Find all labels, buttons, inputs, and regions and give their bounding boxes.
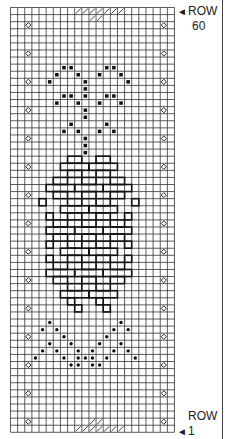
diamond-symbol xyxy=(161,51,166,56)
diamond-symbol xyxy=(26,79,31,84)
hatch-mark xyxy=(76,426,81,431)
dot-symbol xyxy=(134,356,137,359)
dot-symbol xyxy=(77,349,80,352)
filled-square-symbol xyxy=(84,144,88,147)
filled-square-symbol xyxy=(105,123,109,126)
bold-outline-block xyxy=(46,255,53,262)
dot-symbol xyxy=(84,356,87,359)
diamond-symbol xyxy=(161,391,166,396)
filled-square-symbol xyxy=(62,66,66,69)
diamond-symbol xyxy=(161,277,166,282)
diamond-symbol xyxy=(26,108,31,113)
bold-outline-block xyxy=(68,298,75,305)
filled-square-symbol xyxy=(98,73,102,76)
diamond-symbol xyxy=(26,419,31,424)
filled-square-symbol xyxy=(69,94,73,97)
dot-symbol xyxy=(48,321,51,324)
dot-symbol xyxy=(41,349,44,352)
dot-symbol xyxy=(62,356,65,359)
bold-outline-block xyxy=(75,305,82,312)
hatch-mark xyxy=(83,9,88,14)
hatch-mark xyxy=(90,16,95,21)
diamond-symbol xyxy=(161,79,166,84)
diamond-symbol xyxy=(26,362,31,367)
filled-square-symbol xyxy=(112,130,116,133)
diamond-symbol xyxy=(161,362,166,367)
diamond-symbol xyxy=(161,23,166,28)
bold-outline-block xyxy=(39,199,46,206)
diamond-symbol xyxy=(161,164,166,169)
bold-outline-block xyxy=(96,298,103,305)
hatch-mark xyxy=(111,9,116,14)
hatch-mark xyxy=(76,9,81,14)
diamond-symbol xyxy=(161,136,166,141)
diamond-symbol xyxy=(26,136,31,141)
row-60-arrow: ◄ xyxy=(177,6,187,18)
dot-symbol xyxy=(69,363,72,366)
hatch-mark xyxy=(90,9,95,14)
bold-outline-block xyxy=(46,213,53,220)
diamond-symbol xyxy=(26,23,31,28)
bold-outline-block xyxy=(125,213,132,220)
diamond-symbol xyxy=(26,193,31,198)
dot-symbol xyxy=(105,356,108,359)
hatch-mark xyxy=(118,9,123,14)
diamond-symbol xyxy=(161,108,166,113)
dot-symbol xyxy=(119,342,122,345)
dot-symbol xyxy=(55,328,58,331)
filled-square-symbol xyxy=(98,130,102,133)
diamond-symbol xyxy=(161,306,166,311)
diamond-symbol xyxy=(26,249,31,254)
filled-square-symbol xyxy=(62,94,66,97)
diamond-symbol xyxy=(161,221,166,226)
hatch-mark xyxy=(104,426,109,431)
filled-square-symbol xyxy=(126,80,130,83)
diamond-symbol xyxy=(26,51,31,56)
dot-symbol xyxy=(48,342,51,345)
dot-symbol xyxy=(34,356,37,359)
row-1-label-word: ROW xyxy=(188,410,217,422)
row-1-label-number: 1 xyxy=(188,425,195,437)
hatch-mark xyxy=(97,419,102,424)
row-60-label-number: 60 xyxy=(192,20,205,32)
diamond-symbol xyxy=(26,334,31,339)
dot-symbol xyxy=(91,363,94,366)
hatch-mark xyxy=(90,426,95,431)
filled-square-symbol xyxy=(55,101,59,104)
hatch-mark xyxy=(83,426,88,431)
bold-outline-block xyxy=(125,255,132,262)
dot-symbol xyxy=(119,321,122,324)
dot-symbol xyxy=(55,349,58,352)
filled-square-symbol xyxy=(48,80,52,83)
dot-symbol xyxy=(126,328,129,331)
right-border-line xyxy=(222,0,223,439)
diamond-symbol xyxy=(26,221,31,226)
bold-outline-block xyxy=(125,241,132,248)
filled-square-symbol xyxy=(112,66,116,69)
dot-symbol xyxy=(62,335,65,338)
hatch-mark xyxy=(97,16,102,21)
row-1-arrow: ◄ xyxy=(177,426,187,438)
dot-symbol xyxy=(77,356,80,359)
filled-square-symbol xyxy=(105,94,109,97)
dot-symbol xyxy=(126,349,129,352)
diamond-symbol xyxy=(26,277,31,282)
dot-symbol xyxy=(77,363,80,366)
diamond-symbol xyxy=(26,164,31,169)
bold-outline-block xyxy=(132,199,139,206)
hatch-mark xyxy=(111,426,116,431)
hatch-mark xyxy=(90,419,95,424)
diamond-symbol xyxy=(161,249,166,254)
diamond-symbol xyxy=(26,306,31,311)
diamond-symbol xyxy=(161,419,166,424)
row-60-label-word: ROW xyxy=(188,5,217,17)
filled-square-symbol xyxy=(84,80,88,83)
filled-square-symbol xyxy=(119,73,123,76)
filled-square-symbol xyxy=(69,123,73,126)
knitting-chart-grid xyxy=(10,7,180,437)
filled-square-symbol xyxy=(84,87,88,90)
filled-square-symbol xyxy=(76,130,80,133)
diamond-symbol xyxy=(161,193,166,198)
filled-square-symbol xyxy=(62,130,66,133)
dot-symbol xyxy=(41,328,44,331)
